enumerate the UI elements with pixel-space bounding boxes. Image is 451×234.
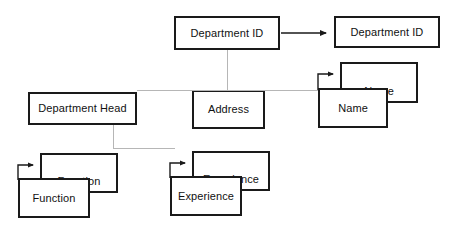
diagram-canvas: Department ID Department ID Department H…: [0, 0, 451, 234]
node-label: Name: [338, 102, 368, 115]
node-label: Function: [33, 192, 76, 205]
node-experience-front[interactable]: Experience: [170, 176, 242, 216]
node-name-front[interactable]: Name: [318, 88, 388, 128]
node-function-front[interactable]: Function: [18, 178, 90, 218]
node-label: Experience: [178, 190, 234, 203]
